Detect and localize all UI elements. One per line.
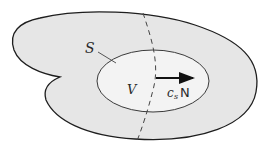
vector-name-label: N bbox=[180, 85, 190, 100]
diagram-canvas: S V c s N bbox=[0, 0, 271, 145]
surface-label: S bbox=[85, 40, 95, 56]
vector-coeff-label: c bbox=[167, 86, 174, 100]
inner-region-ellipse bbox=[97, 50, 209, 112]
volume-label: V bbox=[127, 82, 138, 97]
vector-sub-label: s bbox=[174, 92, 178, 101]
